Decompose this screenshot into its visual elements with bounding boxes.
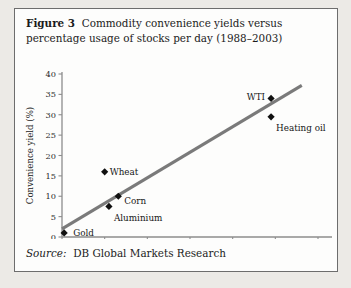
source-label: Source: — [26, 247, 67, 259]
y-tick-label: 30 — [46, 110, 56, 120]
figure-caption: Figure 3 Commodity convenience yields ve… — [26, 16, 326, 45]
y-tick-label: 5 — [51, 212, 56, 222]
data-point-label: Gold — [73, 228, 94, 238]
data-point-label: Wheat — [110, 167, 139, 177]
figure-number: Figure 3 — [26, 17, 75, 29]
y-tick-label: 0 — [51, 232, 56, 239]
source-note: Source: DB Global Markets Research — [26, 247, 226, 259]
source-value: DB Global Markets Research — [73, 247, 226, 259]
y-tick-label: 15 — [46, 171, 56, 181]
figure-container: Figure 3 Commodity convenience yields ve… — [14, 8, 338, 272]
scatter-chart: 05101520253035400123456Daily consumption… — [15, 47, 339, 239]
y-axis-title: Convenience yield (%) — [25, 107, 35, 204]
data-point-marker — [267, 113, 274, 120]
data-point-label: Aluminium — [113, 213, 163, 223]
data-point-marker — [101, 168, 108, 175]
y-tick-label: 40 — [46, 69, 56, 79]
y-tick-label: 10 — [46, 191, 56, 201]
chart-plot-area: 05101520253035400123456Daily consumption… — [15, 47, 339, 239]
y-tick-label: 25 — [46, 130, 56, 140]
data-point-label: WTI — [247, 92, 265, 102]
y-tick-label: 20 — [46, 151, 56, 161]
data-point-label: Corn — [124, 196, 146, 206]
trend-line — [62, 85, 302, 228]
data-point-label: Heating oil — [276, 123, 326, 133]
y-tick-label: 35 — [46, 89, 56, 99]
